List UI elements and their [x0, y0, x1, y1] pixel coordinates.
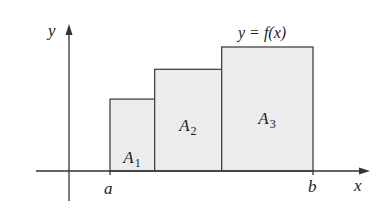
area-diagram: y x a b y = f(x) A1A2A3: [0, 0, 386, 208]
regions-group: [110, 47, 313, 171]
region-1-subscript: 1: [135, 156, 141, 170]
interval-end-label: b: [308, 177, 317, 196]
y-axis-arrow-icon: [66, 24, 73, 35]
curve-label: y = f(x): [236, 24, 286, 42]
x-axis-arrow-icon: [359, 168, 370, 175]
region-3-subscript: 3: [270, 117, 276, 131]
region-2-subscript: 2: [191, 124, 197, 138]
x-axis-label: x: [353, 176, 362, 195]
y-axis-label: y: [46, 21, 56, 40]
interval-start-label: a: [104, 179, 113, 198]
